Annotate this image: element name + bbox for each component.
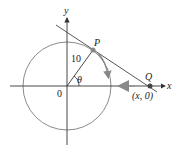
radius-label: 10 xyxy=(71,53,81,64)
point-q-coordinate-label: (x, 0) xyxy=(132,90,154,102)
origin-label: 0 xyxy=(57,88,62,99)
point-q-label: Q xyxy=(145,71,153,82)
y-axis-label: y xyxy=(63,5,69,16)
tangent-circle-diagram: y x 0 P Q 10 θ (x, 0) xyxy=(0,0,178,155)
x-axis-label: x xyxy=(166,80,172,91)
point-p xyxy=(91,48,96,53)
point-q xyxy=(148,84,153,89)
point-p-label: P xyxy=(93,37,100,48)
angle-label: θ xyxy=(77,74,82,85)
